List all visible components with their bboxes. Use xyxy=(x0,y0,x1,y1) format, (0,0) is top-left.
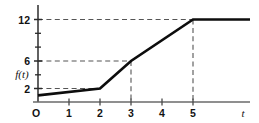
y-tick-label-6: 6 xyxy=(24,55,30,67)
x-tick-label-1: 1 xyxy=(66,107,72,119)
x-tick-label-3: 3 xyxy=(128,107,134,119)
x-tick-label-4: 4 xyxy=(159,107,165,119)
function-curve xyxy=(38,20,250,96)
origin-label: O xyxy=(32,107,40,119)
chart-figure: 12 6 2 1 2 3 4 5 O f(t) t xyxy=(0,0,259,123)
y-tick-label-2: 2 xyxy=(24,83,30,95)
y-tick-label-12: 12 xyxy=(18,14,30,26)
plot-area: 12 6 2 1 2 3 4 5 O f(t) t xyxy=(0,0,259,123)
guide-lines xyxy=(38,20,193,103)
y-axis-label: f(t) xyxy=(15,68,29,81)
x-tick-label-5: 5 xyxy=(190,107,196,119)
x-axis-label: t xyxy=(241,107,245,119)
x-tick-label-2: 2 xyxy=(97,107,103,119)
